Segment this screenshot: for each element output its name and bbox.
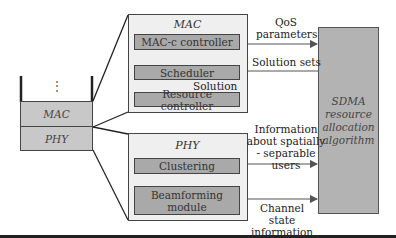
mac-panel-title: MAC — [129, 18, 246, 31]
sdma-algorithm-block: SDMA resource allocation algorithm — [318, 27, 379, 214]
clustering-block: Clustering — [134, 158, 240, 174]
qos-parameters-label: QoS parameters — [256, 16, 316, 40]
phy-panel-title: PHY — [129, 139, 246, 152]
stack-layer-phy: PHY — [20, 126, 93, 151]
protocol-stack: ⋮ MAC PHY — [20, 76, 93, 151]
resource-controller-block: Resource controller — [134, 92, 240, 107]
solution-sets-label: Solution sets — [252, 56, 321, 68]
beamforming-module-block: Beamforming module — [134, 186, 240, 215]
sdma-label: SDMA resource allocation algorithm — [323, 95, 375, 147]
mac-panel: MAC MAC-c controller Scheduler Solution … — [128, 14, 248, 113]
mac-c-controller-block: MAC-c controller — [134, 34, 240, 50]
scheduler-block: Scheduler — [134, 65, 240, 80]
stack-layer-mac: MAC — [20, 101, 93, 127]
stack-ellipsis: ⋮ — [20, 80, 93, 92]
channel-state-info-label: Channel state information — [250, 202, 314, 238]
phy-panel: PHY Clustering Beamforming module — [128, 133, 248, 221]
spatially-separable-info-label: Information about spatially - separable … — [246, 123, 326, 171]
